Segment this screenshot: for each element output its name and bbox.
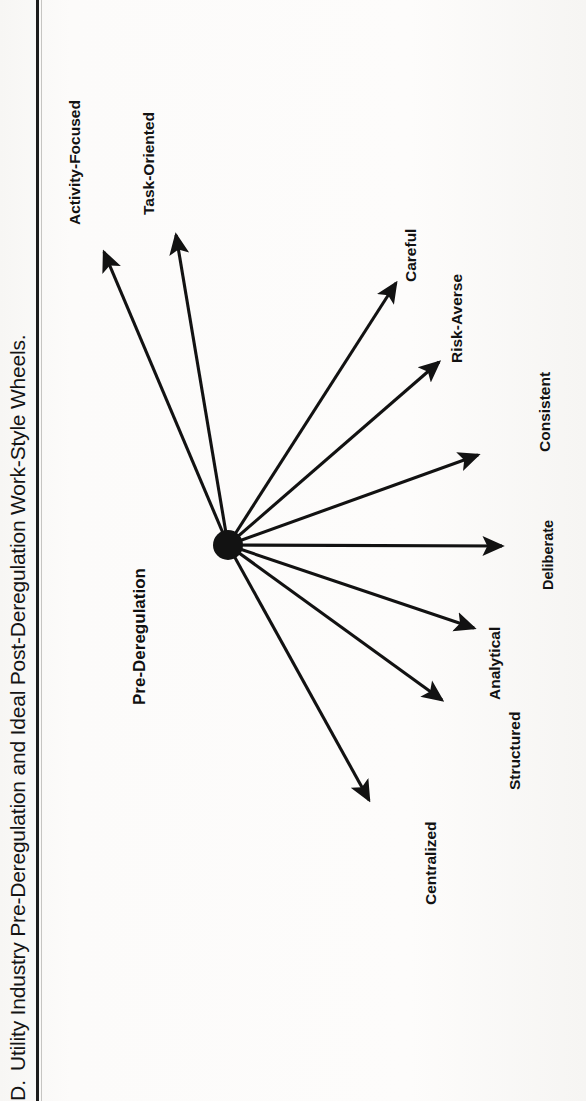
label-consistent: Consistent xyxy=(536,372,554,452)
spoke-careful xyxy=(228,283,396,545)
spoke-risk-averse xyxy=(228,362,439,545)
label-centralized: Centralized xyxy=(422,821,440,905)
spoke-deliberate xyxy=(228,545,502,546)
figure-caption: D. Utility Industry Pre-Deregulation and… xyxy=(0,0,36,1101)
spoke-analytical xyxy=(228,545,474,628)
label-task-oriented: Task-Oriented xyxy=(140,112,158,215)
wheel-svg xyxy=(44,0,586,1101)
page-gutter-rule-secondary xyxy=(41,0,42,1101)
work-style-wheel-diagram: Pre-Deregulation Activity-Focused Task-O… xyxy=(44,0,586,1101)
label-activity-focused: Activity-Focused xyxy=(66,100,84,225)
diagram-heading: Pre-Deregulation xyxy=(130,568,150,705)
label-deliberate: Deliberate xyxy=(540,520,556,590)
hub-circle xyxy=(213,530,243,560)
figure-number: D. xyxy=(6,1080,30,1101)
page-gutter-rule xyxy=(36,0,39,1101)
spoke-task-oriented xyxy=(176,235,228,545)
spoke-structured xyxy=(228,545,442,700)
spoke-activity-focused xyxy=(104,252,228,545)
spoke-consistent xyxy=(228,455,478,545)
spoke-centralized xyxy=(228,545,369,800)
spoke-arrows xyxy=(104,235,502,800)
label-risk-averse: Risk-Averse xyxy=(448,274,466,363)
label-analytical: Analytical xyxy=(486,627,504,700)
label-careful: Careful xyxy=(402,229,420,282)
figure-caption-text: Utility Industry Pre-Deregulation and Id… xyxy=(6,335,30,1075)
label-structured: Structured xyxy=(506,712,524,790)
